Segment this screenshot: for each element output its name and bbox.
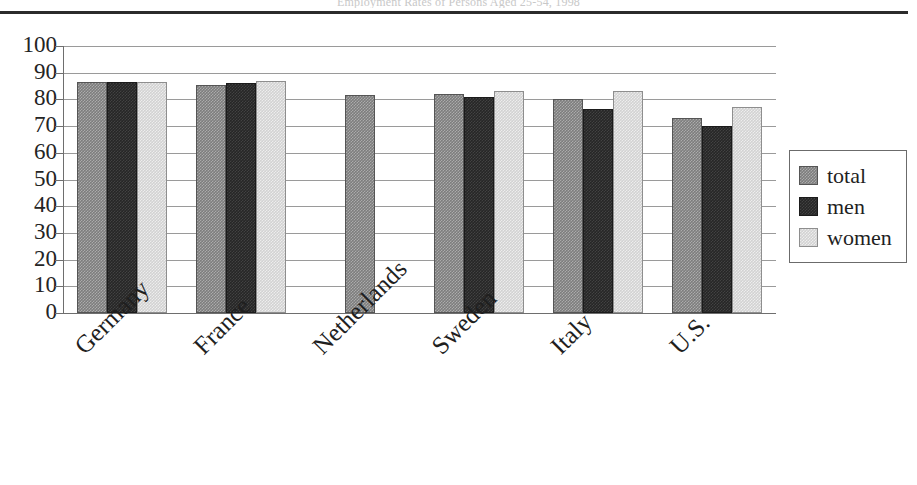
square-swatch-icon xyxy=(799,166,818,185)
legend-label: total xyxy=(827,165,866,187)
y-tick-10 xyxy=(55,286,64,287)
legend-item-total: total xyxy=(799,160,898,191)
y-tick-20 xyxy=(55,260,64,261)
y-tick-100 xyxy=(55,46,64,47)
y-tick-50 xyxy=(55,180,64,181)
legend-item-women: women xyxy=(799,222,898,253)
x-axis-category-labels: GermanyFranceNetherlandsSwedenItalyU.S. xyxy=(0,0,917,485)
y-tick-70 xyxy=(55,126,64,127)
chart-page: Employment Rates of Persons Aged 25-54, … xyxy=(0,0,917,485)
x-label-italy: Italy xyxy=(546,309,597,360)
legend-label: men xyxy=(827,196,865,218)
square-swatch-icon xyxy=(799,197,818,216)
legend-label: women xyxy=(827,227,892,249)
x-label-germany: Germany xyxy=(70,275,154,359)
y-tick-0 xyxy=(55,313,64,314)
y-tick-60 xyxy=(55,153,64,154)
x-label-us: U.S. xyxy=(665,310,715,360)
x-label-france: France xyxy=(189,293,255,359)
y-tick-30 xyxy=(55,233,64,234)
x-label-sweden: Sweden xyxy=(427,285,501,359)
y-tick-80 xyxy=(55,99,64,100)
y-tick-40 xyxy=(55,206,64,207)
y-tick-90 xyxy=(55,73,64,74)
square-swatch-icon xyxy=(799,228,818,247)
chart-legend: totalmenwomen xyxy=(789,150,907,263)
legend-item-men: men xyxy=(799,191,898,222)
x-label-netherlands: Netherlands xyxy=(308,256,412,360)
